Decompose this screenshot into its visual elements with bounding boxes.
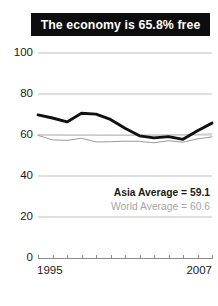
- y-axis-tick-label: 80: [3, 88, 33, 100]
- page-title: The economy is 65.8% free: [41, 18, 201, 32]
- x-axis-start-label: 1995: [37, 264, 63, 276]
- y-axis-tick-label: 20: [3, 211, 33, 223]
- x-axis-tick: [67, 255, 68, 259]
- y-axis-tick-label: 60: [3, 129, 33, 141]
- x-axis-tick: [111, 255, 112, 259]
- x-axis-tick: [169, 255, 170, 259]
- y-axis-tick-label: 40: [3, 170, 33, 182]
- y-axis-tick-label: 0: [3, 252, 33, 264]
- legend-world-average: World Average = 60.6: [111, 200, 210, 214]
- x-axis-end-label: 2007: [186, 264, 212, 276]
- x-axis-tick: [38, 255, 39, 259]
- y-axis-tick-label: 100: [3, 47, 33, 59]
- x-axis-tick: [140, 255, 141, 259]
- x-axis-tick: [82, 255, 83, 259]
- x-axis-tick: [96, 255, 97, 259]
- x-axis-tick: [154, 255, 155, 259]
- x-axis-tick: [212, 255, 213, 259]
- plot-area: [38, 53, 212, 258]
- legend: Asia Average = 59.1 World Average = 60.6: [111, 186, 210, 214]
- legend-asia-average: Asia Average = 59.1: [111, 186, 210, 200]
- series-svg: [38, 53, 212, 258]
- chart-title-bar: The economy is 65.8% free: [31, 13, 210, 36]
- x-axis-tick: [198, 255, 199, 259]
- y-axis-labels: 020406080100: [0, 53, 33, 258]
- economic-freedom-chart-card: The economy is 65.8% free 020406080100 1…: [0, 0, 218, 306]
- x-axis-tick: [53, 255, 54, 259]
- x-axis-tick: [183, 255, 184, 259]
- data-line-group: [38, 113, 212, 143]
- x-axis-tick: [125, 255, 126, 259]
